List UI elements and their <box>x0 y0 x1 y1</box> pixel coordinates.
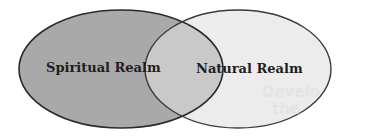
ghost-text-2: the <box>272 101 300 117</box>
spiritual-realm-label: Spiritual Realm <box>46 60 161 75</box>
natural-realm-label: Natural Realm <box>196 61 303 76</box>
ghost-text-1: Develo <box>262 84 320 100</box>
